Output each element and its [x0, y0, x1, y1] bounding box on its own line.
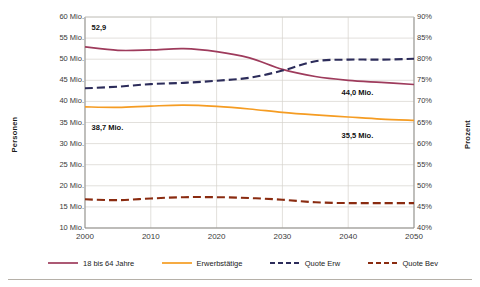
plot-area: [0, 0, 480, 287]
legend-swatch-icon: [48, 259, 78, 267]
bottom-divider: [8, 279, 472, 280]
legend-item[interactable]: 18 bis 64 Jahre: [48, 259, 134, 268]
legend-swatch-icon: [162, 259, 192, 267]
chart-container: Personen Prozent 60 Mio.55 Mio.50 Mio.45…: [0, 0, 480, 287]
legend-item[interactable]: Erwerbstätige: [162, 259, 243, 268]
legend-swatch-icon: [368, 259, 398, 267]
legend-item-label: Erwerbstätige: [197, 259, 243, 268]
legend-item[interactable]: Quote Erw: [270, 259, 340, 268]
legend-swatch-icon: [270, 259, 300, 267]
chart-legend: 18 bis 64 JahreErwerbstätigeQuote ErwQuo…: [48, 255, 438, 271]
data-label: 44,0 Mio.: [342, 88, 374, 97]
legend-item-label: 18 bis 64 Jahre: [83, 259, 134, 268]
legend-item[interactable]: Quote Bev: [368, 259, 438, 268]
data-label: 35,5 Mio.: [342, 131, 374, 140]
legend-item-label: Quote Erw: [305, 259, 340, 268]
data-label: 38,7 Mio.: [92, 123, 124, 132]
legend-item-label: Quote Bev: [403, 259, 438, 268]
data-label: 52,9: [92, 23, 107, 32]
